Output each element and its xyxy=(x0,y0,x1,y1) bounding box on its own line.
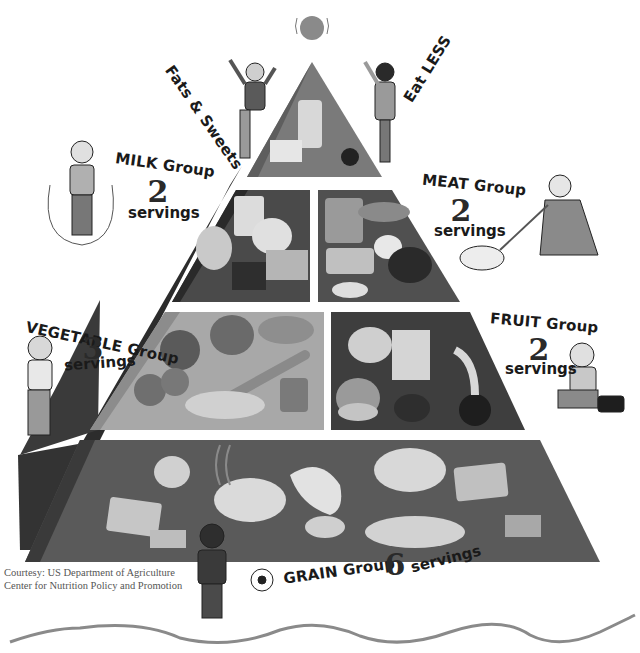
credit-line-2: Center for Nutrition Policy and Promotio… xyxy=(4,579,182,592)
meat-servings-label: servings xyxy=(434,222,506,240)
child-vegetable xyxy=(28,336,52,435)
ball-icon xyxy=(300,16,324,40)
credit-line-1: Courtesy: US Department of Agriculture xyxy=(4,566,182,579)
decorative-wave-line xyxy=(10,615,635,643)
child-milk-jumprope xyxy=(48,141,113,245)
image-credit: Courtesy: US Department of Agriculture C… xyxy=(4,566,182,592)
food-pyramid-diagram: Fats & Sweets Eat LESS MILK Group 2 serv… xyxy=(0,0,640,653)
grain-servings-count: 6 xyxy=(382,550,408,580)
child-eat-less xyxy=(365,62,395,162)
milk-servings-label: servings xyxy=(128,204,200,222)
milk-servings-count: 2 xyxy=(143,177,173,207)
fruit-servings-label: servings xyxy=(505,360,577,378)
